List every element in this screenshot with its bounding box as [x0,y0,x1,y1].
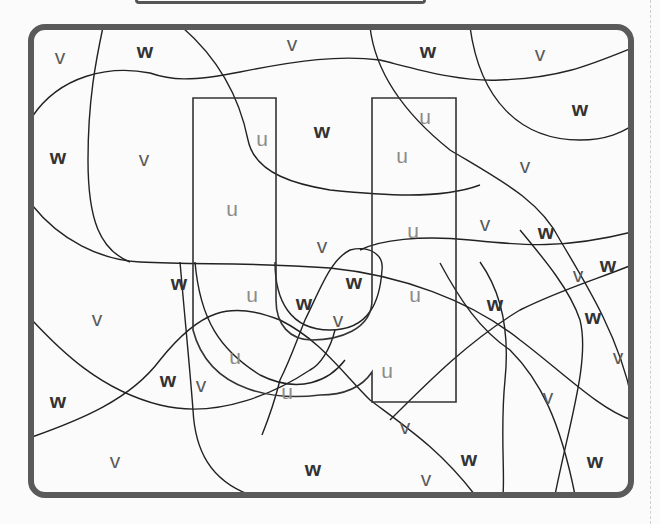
letter-v[interactable]: v [535,42,546,65]
letter-v[interactable]: v [400,415,411,438]
puzzle-frame [31,27,631,495]
letter-w[interactable]: w [586,449,604,472]
letter-w[interactable]: w [460,447,478,470]
letter-u[interactable]: u [256,127,268,150]
letter-v[interactable]: v [543,385,554,408]
letter-w[interactable]: w [537,220,555,243]
letter-v[interactable]: v [613,345,624,368]
letter-v[interactable]: v [317,234,328,257]
letter-u[interactable]: u [407,219,419,242]
letter-w[interactable]: w [136,39,154,62]
letter-u[interactable]: u [229,345,241,368]
letter-u[interactable]: u [409,283,421,306]
letter-w[interactable]: w [571,97,589,120]
letter-v[interactable]: v [55,45,66,68]
letter-u[interactable]: u [381,359,393,382]
letter-w[interactable]: w [486,292,504,315]
letter-w[interactable]: w [584,305,602,328]
puzzle-canvas: vwvwvwuwuwvuvuvwuvwwvwuwvuwvwuuvwvuwvvww… [0,0,660,524]
letter-w[interactable]: w [49,389,67,412]
region-curves [32,27,632,495]
letter-w[interactable]: w [304,457,322,480]
letter-v[interactable]: v [110,449,121,472]
letter-v[interactable]: v [196,373,207,396]
letter-u[interactable]: u [226,197,238,220]
letter-w[interactable]: w [170,271,188,294]
letter-u[interactable]: u [281,380,293,403]
letter-w[interactable]: w [419,39,437,62]
letter-w[interactable]: w [159,368,177,391]
letter-v[interactable]: v [480,212,491,235]
letter-w[interactable]: w [313,119,331,142]
letter-w[interactable]: w [295,291,313,314]
letter-u[interactable]: u [246,283,258,306]
letter-u[interactable]: u [396,144,408,167]
letter-w[interactable]: w [599,253,617,276]
letter-v[interactable]: v [520,154,531,177]
letter-v[interactable]: v [573,263,584,286]
letter-w[interactable]: w [49,145,67,168]
letter-v[interactable]: v [287,32,298,55]
letter-v[interactable]: v [92,307,103,330]
letter-u[interactable]: u [419,105,431,128]
letter-v[interactable]: v [333,308,344,331]
letter-v[interactable]: v [421,467,432,490]
letter-v[interactable]: v [139,147,150,170]
letter-w[interactable]: w [345,270,363,293]
